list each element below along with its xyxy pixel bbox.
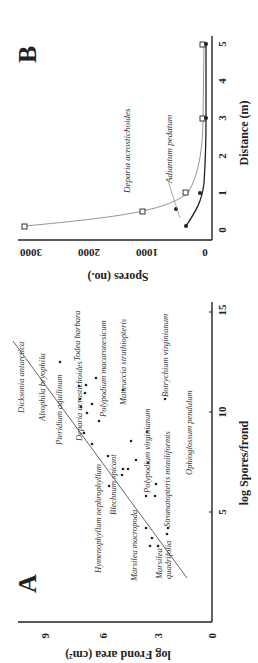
panel-b-x-label: Distance (m): [237, 101, 251, 166]
x-tick: 1: [216, 190, 228, 196]
x-tick: 5: [216, 41, 228, 47]
label-hymenophyllum: Hymenophyllum nephrophyllum: [93, 464, 103, 574]
label-dicksonia: Dicksonia antarctica: [16, 342, 26, 414]
x-tick: 3: [216, 115, 228, 121]
label-ophioglossum: Ophioglossum pendulum: [184, 390, 194, 475]
panel-a-y-label: log Frond area (cm²): [65, 648, 170, 662]
x-tick: 5: [216, 509, 228, 515]
panel-a-x-label: log Spores/frond: [237, 420, 251, 505]
deparia-curve: [25, 44, 204, 226]
panel-b-y-label: Spores (no.): [87, 270, 148, 284]
y-tick: 3: [152, 633, 164, 639]
x-tick: 0: [216, 227, 228, 233]
y-tick: 9: [39, 633, 51, 639]
panel-a-species-labels: Dicksonia antarctica Alsophila bryophila…: [16, 311, 194, 582]
label-marsilea-macropoda: Marsilea macropoda: [129, 510, 139, 582]
panel-b: B 0 1000 2000 3000 0 1 2 3 4 5 Distance …: [13, 36, 251, 284]
label-marsilea-quadrifolia-2: quadrifolia: [163, 541, 173, 579]
label-alsophila: Alsophila bryophila: [37, 353, 47, 422]
x-tick: 15: [216, 304, 228, 316]
label-todea: Todea barbara: [72, 311, 82, 361]
label-stromatopteris: Stromatopteris moniliformis: [162, 431, 172, 527]
label-deparia: Deparia acrostichoides: [74, 361, 84, 442]
y-tick: 6: [97, 633, 109, 639]
label-matteuccia: Matteuccia struthiopteris: [118, 318, 128, 406]
label-deparia-series: Deparia acrostichoides: [122, 108, 132, 194]
adiantum-curve: [186, 44, 206, 226]
y-tick: 0: [206, 633, 218, 639]
figure-canvas: A 0 3 6 9 5 10 15 log Spores/frond log F…: [0, 0, 258, 663]
y-tick: 2000: [78, 247, 101, 259]
y-tick: 1000: [136, 247, 159, 259]
label-botrychium: Botrychium virginianum: [160, 314, 170, 397]
panel-b-y-ticks: 0 1000 2000 3000: [20, 247, 208, 259]
panel-a: A 0 3 6 9 5 10 15 log Spores/frond log F…: [13, 302, 251, 662]
figure: A 0 3 6 9 5 10 15 log Spores/frond log F…: [0, 0, 258, 663]
panel-b-x-ticks: 0 1 2 3 4 5: [216, 41, 228, 233]
label-polypodium-virginianum: Polypodium virginianum: [142, 409, 152, 494]
x-tick: 10: [216, 406, 228, 418]
x-tick: 2: [216, 153, 228, 159]
deparia-markers: [22, 42, 205, 229]
label-adiantum-series: Adiantum pedatum: [164, 114, 174, 184]
panel-b-letter: B: [13, 46, 42, 63]
panel-a-letter: A: [13, 574, 42, 593]
panel-a-y-ticks: 0 3 6 9: [39, 633, 218, 639]
x-tick: 4: [216, 78, 228, 84]
label-polypodium-macaronesicum: Polypodium macaronesicum: [98, 320, 108, 418]
label-pteridium: Pteridium aquilinum: [54, 374, 64, 446]
label-blechnum: Blechnum spicant: [108, 454, 118, 515]
y-tick: 3000: [20, 247, 43, 259]
y-tick: 0: [202, 247, 208, 259]
